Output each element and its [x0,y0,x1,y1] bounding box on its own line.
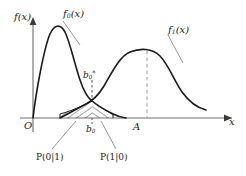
detection-theory-figure: f(x) f0(x) f1(x) b0* b0 A O x P(0|1) P(1… [0,0,246,176]
x-axis-label: x [229,116,235,127]
leader-p01 [52,121,76,149]
y-axis-label: f(x) [14,11,31,22]
axis-group [20,17,232,132]
figure-canvas [0,0,246,176]
threshold-sub: 0 [92,128,96,134]
curve-label-f0: f0(x) [63,8,84,19]
error-label-miss: P(0|1) [36,152,64,162]
leader-f1 [168,35,183,63]
leader-p10 [101,121,116,149]
curve-label-f0-tail: (x) [71,8,84,19]
error-label-false-alarm: P(1|0) [100,152,128,162]
amplitude-label: A [133,121,140,132]
threshold-star-label: b0* [83,69,96,80]
origin-label: O [24,120,32,131]
threshold-label: b0 [86,124,95,134]
curve-label-f1: f1(x) [168,24,189,35]
curve-label-f1-tail: (x) [176,24,189,35]
threshold-star-glyph: * [92,69,95,77]
